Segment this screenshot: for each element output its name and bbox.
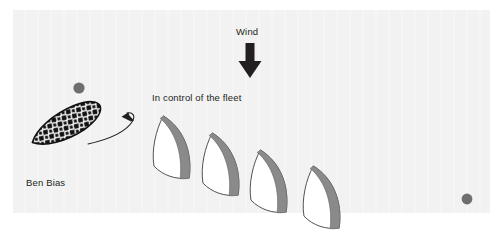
boat-ben-bias bbox=[26, 94, 107, 154]
fleet-boat-2 bbox=[196, 132, 251, 198]
wind-arrow-down-icon bbox=[239, 43, 262, 78]
diagram-stage: Wind In control of the fleet Ben Bias bbox=[0, 0, 504, 233]
fleet-boat-1 bbox=[147, 115, 202, 181]
fleet-boat-3 bbox=[244, 149, 299, 215]
mark-buoy-upwind bbox=[73, 82, 84, 93]
ben-bias-label: Ben Bias bbox=[26, 177, 65, 188]
wind-label: Wind bbox=[236, 26, 258, 37]
mark-buoy-downwind bbox=[462, 194, 473, 205]
fleet-control-label: In control of the fleet bbox=[152, 92, 242, 103]
fleet-boat-4 bbox=[297, 165, 352, 231]
